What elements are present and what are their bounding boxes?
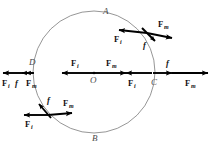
center-force-Fi-label: F i [71,58,79,69]
svg-text:m: m [164,24,169,30]
ur-force-Fm-label: F m [158,19,169,30]
force-diagram-figure: A B O F i F m D [0,0,212,149]
svg-text:i: i [134,83,136,89]
svg-text:m: m [191,83,196,89]
svg-text:m: m [69,103,74,109]
svg-text:m: m [32,83,37,89]
center-point-dot [93,72,96,75]
point-label-O: O [90,75,97,85]
svg-text:i: i [77,63,79,69]
svg-text:F: F [158,19,163,29]
center-cluster: O F i F m [62,58,126,85]
svg-text:i: i [8,83,10,89]
D-force-f-label: f [15,78,19,88]
ll-force-Fm-label: F m [63,98,74,109]
svg-text:F: F [71,58,76,68]
svg-text:F: F [63,98,68,108]
D-force-Fi-label: F i [2,78,10,89]
C-force-Fi-label: F i [128,78,136,89]
ur-force-Fi-label: F i [114,34,122,45]
svg-text:F: F [114,34,119,44]
svg-text:i: i [31,124,33,130]
right-cluster-C: C F i f F m [126,58,208,89]
left-cluster-D: D F i f F m [2,57,37,89]
svg-text:F: F [128,78,133,88]
C-force-f-label: f [166,58,170,68]
svg-text:F: F [185,78,190,88]
point-label-D: D [28,57,36,67]
svg-text:m: m [112,63,117,69]
upper-right-cluster: F i F m f [114,19,172,50]
svg-text:F: F [106,58,111,68]
svg-text:i: i [120,39,122,45]
point-label-A: A [102,6,109,16]
svg-text:F: F [25,119,30,129]
center-force-Fm-label: F m [106,58,117,69]
svg-text:F: F [2,78,7,88]
ll-force-Fi-label: F i [25,119,33,130]
ll-force-f-label: f [47,95,51,105]
svg-text:F: F [26,78,31,88]
lower-left-cluster: F i F m f [24,95,74,130]
point-label-B: B [92,133,98,143]
point-label-C: C [151,77,158,87]
D-force-Fm-label: F m [26,78,37,89]
C-force-Fm-label: F m [185,78,196,89]
